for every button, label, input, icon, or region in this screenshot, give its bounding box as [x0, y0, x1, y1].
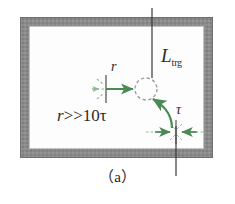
- relation-lhs: r: [57, 106, 64, 125]
- trigger-length-subscript: trg: [172, 57, 182, 68]
- outer-frame: [20, 17, 213, 158]
- relation-label: r>>10τ: [57, 107, 107, 124]
- radius-label: r: [111, 60, 116, 74]
- figure-caption: （a）: [0, 170, 235, 185]
- figure-panel-a: Ltrg r τ r>>10τ （a）: [0, 0, 235, 204]
- trigger-length-symbol: L: [161, 45, 172, 66]
- tau-label: τ: [176, 103, 181, 117]
- trigger-length-label: Ltrg: [161, 46, 182, 68]
- relation-text: >>10τ: [64, 106, 107, 125]
